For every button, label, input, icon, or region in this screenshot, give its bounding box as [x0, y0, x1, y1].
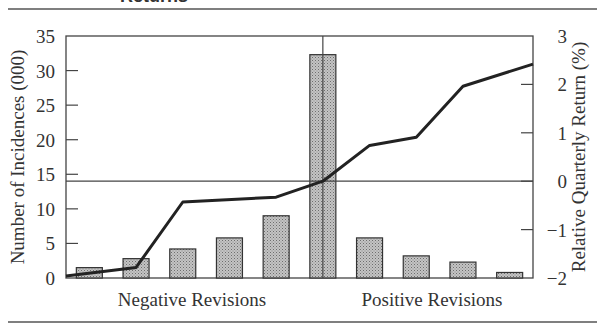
left-axis-label: Number of Incidences (000) [7, 50, 29, 265]
left-tick-label: 35 [36, 26, 55, 47]
bar [357, 238, 383, 278]
left-tick-label: 25 [36, 95, 55, 116]
bar [216, 238, 242, 278]
chart: 05101520253035 −2−10123 Number of Incide… [0, 0, 605, 329]
right-tick-label: −2 [547, 268, 567, 289]
left-tick-label: 15 [36, 164, 55, 185]
left-tick-label: 5 [46, 233, 56, 254]
plot-frame [66, 36, 533, 278]
left-tick-label: 10 [36, 199, 55, 220]
bar [450, 262, 476, 278]
bar-series [76, 55, 522, 278]
bar [263, 216, 289, 278]
right-tick-label: 2 [558, 74, 568, 95]
right-tick-label: 0 [558, 171, 568, 192]
bar [403, 256, 429, 278]
right-tick-label: 1 [558, 123, 568, 144]
bar [170, 249, 196, 278]
positive-revisions-label: Positive Revisions [362, 289, 503, 310]
right-tick-label: −1 [547, 220, 567, 241]
negative-revisions-label: Negative Revisions [118, 289, 266, 310]
left-tick-label: 0 [46, 268, 56, 289]
left-tick-label: 20 [36, 130, 55, 151]
bar [497, 272, 523, 278]
left-tick-label: 30 [36, 61, 55, 82]
return-line [66, 64, 533, 276]
right-tick-label: 3 [558, 26, 568, 47]
right-axis-label: Relative Quarterly Return (%) [568, 42, 590, 273]
left-axis-ticks: 05101520253035 [36, 26, 78, 289]
